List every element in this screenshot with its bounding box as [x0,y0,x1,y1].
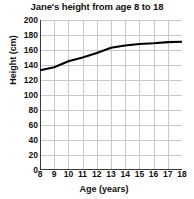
chart-container: Jane's height from age 8 to 18 Height (c… [0,0,194,199]
x-tick-label: 18 [172,170,192,179]
x-axis-ticks: 89101112131415161718 [0,0,194,199]
